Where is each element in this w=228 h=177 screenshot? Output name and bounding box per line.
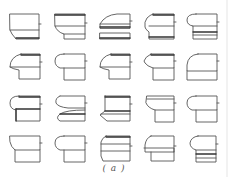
profile-drawing-r4c2 <box>52 134 88 164</box>
round-cap-base-icon <box>52 52 88 82</box>
profile-drawing-r2c4 <box>141 52 177 82</box>
profile-drawing-r1c4 <box>141 12 177 42</box>
profile-drawing-r1c1 <box>7 12 43 42</box>
slant-lip-icon <box>97 94 133 124</box>
round-cap-neck-dark-icon <box>7 94 43 124</box>
profile-drawing-r3c3 <box>97 94 133 124</box>
quarter-round-base-icon <box>184 52 220 82</box>
double-lip-icon <box>52 94 88 124</box>
round-cap-neck-icon <box>141 12 177 42</box>
profile-figure <box>0 0 228 177</box>
profile-drawing-r3c2 <box>52 94 88 124</box>
profile-drawing-r3c5 <box>184 94 220 124</box>
profile-drawing-r4c5 <box>184 134 220 164</box>
plain-base-icon <box>7 134 43 164</box>
profile-drawing-r2c1 <box>7 52 43 82</box>
page-edge <box>226 0 228 177</box>
lip-band-base-icon <box>141 134 177 164</box>
box-step-bottom-icon <box>52 12 88 42</box>
bevel-box-icon <box>97 134 133 164</box>
profile-drawing-r2c2 <box>52 52 88 82</box>
profile-drawing-r1c3 <box>97 12 133 42</box>
profile-drawing-r4c4 <box>141 134 177 164</box>
cove-base-icon <box>141 94 177 124</box>
profile-drawing-r2c5 <box>184 52 220 82</box>
profile-drawing-r1c5 <box>184 12 220 42</box>
figure-caption: ( a ) <box>0 163 228 173</box>
plain-box-chamfer-icon <box>7 12 43 42</box>
round-cap-bands-icon <box>184 12 220 42</box>
round-drip-base-icon <box>97 52 133 82</box>
profile-drawing-r3c1 <box>7 94 43 124</box>
pointed-cap-base-icon <box>141 52 177 82</box>
profile-drawing-r1c2 <box>52 12 88 42</box>
round-cap-base-icon <box>184 94 220 124</box>
profile-drawing-r4c3 <box>97 134 133 164</box>
flat-lip-gap-icon <box>97 12 133 42</box>
profile-drawing-r3c4 <box>141 94 177 124</box>
profile-drawing-r2c3 <box>97 52 133 82</box>
round-cap-base-icon <box>52 134 88 164</box>
profile-drawing-r4c1 <box>7 134 43 164</box>
round-drip-base-icon <box>7 52 43 82</box>
round-bands-small-icon <box>184 134 220 164</box>
